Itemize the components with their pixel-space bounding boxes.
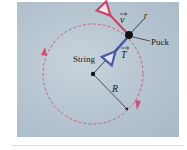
radius-line xyxy=(93,74,128,110)
svg-text:v: v xyxy=(120,14,125,25)
svg-text:T: T xyxy=(121,49,128,60)
velocity-label: v xyxy=(120,13,127,26)
puck xyxy=(125,31,133,39)
tension-label: T xyxy=(121,47,129,61)
radius-label: R xyxy=(111,83,118,94)
string-label: String xyxy=(73,54,96,64)
puck-leader-line xyxy=(133,37,150,41)
puck-label: Puck xyxy=(151,37,170,47)
radial-label: r xyxy=(144,10,148,20)
orbit-direction-arrow-right xyxy=(135,100,141,110)
circular-motion-diagram: v r Puck T String R xyxy=(0,0,187,150)
orbit-direction-arrow-left xyxy=(41,47,47,56)
